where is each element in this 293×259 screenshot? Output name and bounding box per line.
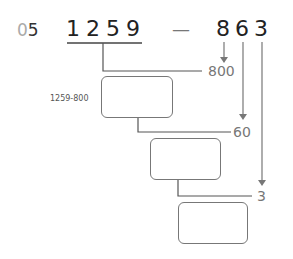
question-number-prefix: 0	[17, 20, 28, 40]
part-800: 800	[208, 63, 235, 79]
subtrahend-digit-ones: 3	[254, 16, 268, 41]
minuend-digit: 5	[106, 16, 126, 41]
minuend-digit: 2	[86, 16, 106, 41]
answer-box-2[interactable]	[150, 138, 221, 180]
question-number-suffix: 5	[28, 20, 39, 40]
subtrahend-digit-tens: 6	[235, 16, 249, 41]
part-3: 3	[257, 188, 266, 204]
answer-box-3[interactable]	[178, 202, 248, 244]
hint-label: 1259-800	[50, 94, 89, 103]
answer-box-1[interactable]	[101, 76, 173, 118]
minuend-digit: 9	[126, 16, 146, 41]
subtrahend-digit-hundreds: 8	[216, 16, 230, 41]
question-number: 05	[17, 20, 39, 40]
part-60: 60	[233, 124, 251, 140]
minuend-digit: 1	[66, 16, 86, 41]
minus-sign: —	[172, 18, 190, 39]
minuend: 1259	[66, 16, 146, 41]
